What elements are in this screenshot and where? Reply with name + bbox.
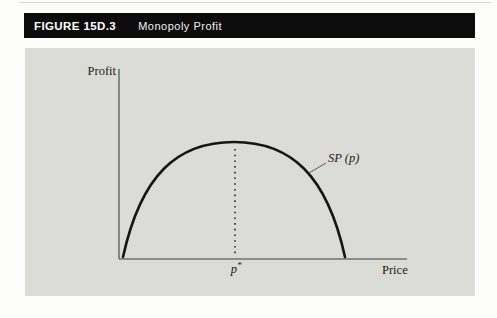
pstar-asterisk: * <box>237 260 242 270</box>
profit-curve <box>123 142 345 257</box>
top-divider <box>19 2 491 3</box>
x-axis-label: Price <box>382 263 408 277</box>
plot-area: Profit Price p* SP (p) <box>25 48 475 296</box>
plot-canvas <box>25 48 475 296</box>
figure-number: FIGURE 15D.3 <box>34 20 116 32</box>
figure-title: Monopoly Profit <box>138 20 222 32</box>
y-axis-label: Profit <box>63 64 116 78</box>
curve-label: SP (p) <box>328 151 359 165</box>
pstar-tick-label: p* <box>223 262 249 276</box>
curve-label-leader-line <box>309 163 326 173</box>
figure-header: FIGURE 15D.3 Monopoly Profit <box>24 13 475 38</box>
